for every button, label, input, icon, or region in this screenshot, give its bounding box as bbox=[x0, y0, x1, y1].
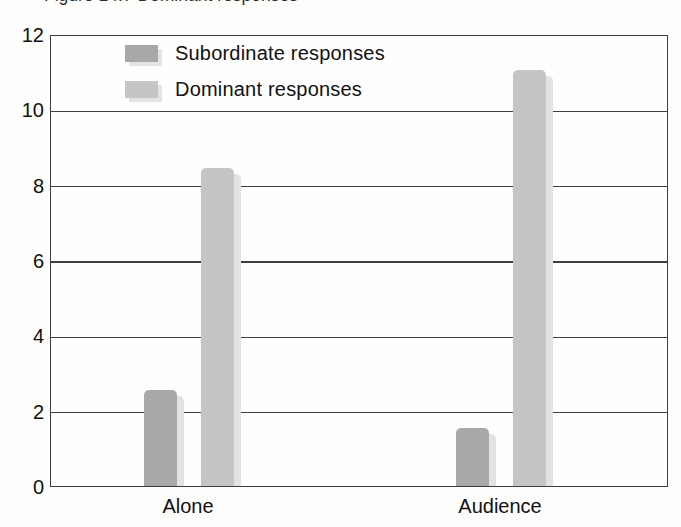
legend-row-dominant: Dominant responses bbox=[125, 79, 385, 99]
y-axis-tick-12: 12 bbox=[8, 23, 44, 47]
gridline-y-6 bbox=[51, 261, 667, 263]
x-axis-label-alone: Alone bbox=[118, 494, 258, 518]
bar-alone-dominant bbox=[201, 168, 234, 487]
cropped-caption: Figure 14.7 Dominant responses bbox=[0, 0, 380, 6]
gridline-y-4 bbox=[51, 337, 667, 339]
dominant-legend-label: Dominant responses bbox=[175, 79, 362, 99]
chart-legend: Subordinate responses Dominant responses bbox=[125, 43, 385, 115]
bar-chart-plot-area: Subordinate responses Dominant responses bbox=[50, 35, 668, 487]
subordinate-legend-label: Subordinate responses bbox=[175, 43, 385, 63]
y-axis-tick-4: 4 bbox=[8, 324, 44, 348]
y-axis-tick-0: 0 bbox=[8, 475, 44, 499]
subordinate-legend-swatch bbox=[125, 45, 158, 62]
y-axis-tick-10: 10 bbox=[8, 98, 44, 122]
bar-audience-subordinate bbox=[456, 428, 489, 487]
gridline-y-8 bbox=[51, 186, 667, 188]
figure-page: { "page": { "clipped_caption_fragment": … bbox=[0, 0, 681, 527]
dominant-legend-swatch bbox=[125, 81, 158, 98]
bar-alone-subordinate bbox=[144, 390, 177, 487]
y-axis-tick-2: 2 bbox=[8, 400, 44, 424]
cropped-caption-text: Figure 14.7 Dominant responses bbox=[44, 0, 298, 4]
y-axis-tick-6: 6 bbox=[8, 249, 44, 273]
y-axis-tick-8: 8 bbox=[8, 174, 44, 198]
legend-row-subordinate: Subordinate responses bbox=[125, 43, 385, 63]
x-axis-label-audience: Audience bbox=[430, 494, 570, 518]
bar-audience-dominant bbox=[513, 70, 546, 487]
